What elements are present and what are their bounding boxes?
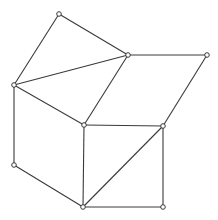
node-G bbox=[12, 163, 17, 168]
graph-diagram bbox=[0, 0, 218, 220]
edge-G-H bbox=[14, 165, 83, 207]
edge-C-D bbox=[14, 85, 84, 125]
node-D bbox=[82, 123, 87, 128]
node-C bbox=[12, 83, 17, 88]
edge-A-B bbox=[59, 14, 128, 55]
edge-D-H bbox=[83, 125, 84, 207]
edge-A-C bbox=[14, 14, 59, 85]
node-A bbox=[57, 12, 62, 17]
edge-H-F bbox=[83, 126, 163, 207]
edge-E-F bbox=[163, 55, 207, 126]
edges-group bbox=[14, 14, 207, 207]
node-F bbox=[161, 124, 166, 129]
edge-D-F bbox=[84, 125, 163, 126]
edge-B-D bbox=[84, 55, 128, 125]
node-I bbox=[161, 205, 166, 210]
node-B bbox=[126, 53, 131, 58]
edge-C-B bbox=[14, 55, 128, 85]
node-H bbox=[81, 205, 86, 210]
node-E bbox=[205, 53, 210, 58]
